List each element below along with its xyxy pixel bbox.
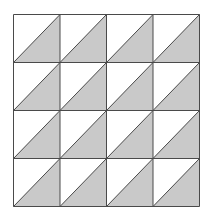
triangle-grid-diagram: [0, 0, 209, 218]
